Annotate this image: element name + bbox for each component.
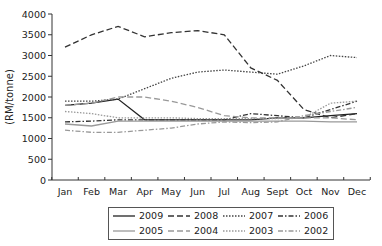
legend-swatch	[278, 213, 300, 219]
legend-item-2004: 2004	[168, 225, 223, 236]
x-tick-label: Apr	[136, 186, 153, 197]
y-tick-label: 2000	[22, 92, 46, 103]
legend-label: 2003	[249, 225, 273, 236]
x-tick-label: Jun	[189, 186, 205, 197]
legend-item-2003: 2003	[223, 225, 278, 236]
legend-label: 2002	[304, 225, 328, 236]
y-tick-label: 3000	[22, 50, 46, 61]
legend-swatch	[168, 213, 190, 219]
x-tick-label: Oct	[296, 186, 313, 197]
legend-item-2005: 2005	[113, 225, 168, 236]
legend-item-2009: 2009	[113, 210, 168, 221]
y-tick-label: 500	[28, 154, 46, 165]
legend-label: 2005	[139, 225, 163, 236]
y-tick-label: 1500	[22, 112, 46, 123]
series-line-2009	[65, 99, 357, 120]
y-tick-label: 1000	[22, 133, 46, 144]
y-tick-label: 0	[40, 175, 46, 186]
x-tick-label: Mar	[109, 186, 127, 197]
legend-row-2: 2005 2004 2003 2002	[109, 223, 333, 238]
legend-item-2008: 2008	[168, 210, 223, 221]
legend-label: 2004	[194, 225, 218, 236]
legend-item-2007: 2007	[223, 210, 278, 221]
x-tick-label: Dec	[348, 186, 366, 197]
legend-swatch	[223, 228, 245, 234]
legend-swatch	[278, 228, 300, 234]
series-line-2007	[65, 56, 357, 102]
legend-item-2002: 2002	[278, 225, 333, 236]
series-line-2005	[65, 121, 357, 126]
legend-label: 2008	[194, 210, 218, 221]
y-axis: 05001000150020002500300035004000	[22, 9, 52, 186]
y-tick-label: 4000	[22, 9, 46, 20]
line-chart: 05001000150020002500300035004000 JanFebM…	[0, 0, 382, 206]
legend-swatch	[223, 213, 245, 219]
series-line-2003	[65, 101, 357, 118]
legend-label: 2009	[139, 210, 163, 221]
x-axis: JanFebMarAprMayJunJulAugSeptOctNovDec	[52, 177, 371, 197]
x-tick-label: Sept	[267, 186, 289, 197]
y-axis-title: (RM/tonne)	[4, 69, 15, 125]
x-tick-label: May	[161, 186, 181, 197]
legend-label: 2007	[249, 210, 273, 221]
y-tick-label: 3500	[22, 29, 46, 40]
legend-swatch	[113, 213, 135, 219]
legend-item-2006: 2006	[278, 210, 333, 221]
x-tick-label: Aug	[242, 186, 261, 197]
x-tick-label: Feb	[83, 186, 100, 197]
series-line-2008	[65, 26, 357, 117]
legend-swatch	[113, 228, 135, 234]
x-tick-label: Nov	[321, 186, 340, 197]
x-tick-label: Jul	[218, 186, 230, 197]
legend-label: 2006	[304, 210, 328, 221]
legend-swatch	[168, 228, 190, 234]
legend-row-1: 2009 2008 2007 2006	[109, 208, 333, 223]
legend: 2009 2008 2007 2006 2005 2004 2003 2002	[108, 207, 334, 240]
y-tick-label: 2500	[22, 71, 46, 82]
x-tick-label: Jan	[57, 186, 73, 197]
series-lines	[65, 26, 357, 132]
